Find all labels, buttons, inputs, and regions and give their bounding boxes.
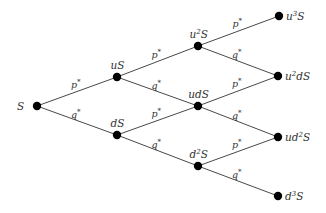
edge-label-p-star: p* <box>232 138 242 150</box>
edge-label-q-star: q* <box>232 168 242 180</box>
node-label-ud2S: ud2S <box>285 131 310 143</box>
node-label-udS: udS <box>188 88 209 100</box>
edge-label-p-star: p* <box>232 77 242 89</box>
node-label-u2S: u2S <box>190 28 208 40</box>
node-d3S-dot <box>274 192 282 200</box>
edge-label-q-star: q* <box>152 79 162 91</box>
edge-label-p-star: p* <box>71 78 81 90</box>
node-u2dS-dot <box>274 72 282 80</box>
edge-label-q-star: q* <box>71 108 81 120</box>
node-ud2S-dot <box>274 133 282 141</box>
node-d2S-dot <box>194 162 202 170</box>
node-label-dS: dS <box>111 117 125 129</box>
node-label-u3S: u3S <box>286 10 304 22</box>
binomial-tree-diagram: p*q*p*q*p*q*p*q*p*q*p*q* SuSdSu2SudSd2Su… <box>0 0 326 213</box>
edge-label-q-star: q* <box>152 138 162 150</box>
node-dS-dot <box>113 131 121 139</box>
edge-label-p-star: p* <box>152 48 162 60</box>
edge-label-q-star: q* <box>232 48 242 60</box>
node-label-u2dS: u2dS <box>285 70 310 82</box>
node-label-d2S: d2S <box>190 148 208 160</box>
node-labels-group: SuSdSu2SudSd2Su3Su2dSud2Sd3S <box>17 10 310 202</box>
node-label-S: S <box>17 100 24 112</box>
edge-label-q-star: q* <box>232 109 242 121</box>
node-uS-dot <box>113 73 121 81</box>
node-u2S-dot <box>194 42 202 50</box>
node-S-dot <box>33 102 41 110</box>
node-label-uS: uS <box>111 59 125 71</box>
edge-label-p-star: p* <box>152 107 162 119</box>
node-label-d3S: d3S <box>285 190 303 202</box>
node-udS-dot <box>194 102 202 110</box>
edge-label-p-star: p* <box>233 17 243 29</box>
node-u3S-dot <box>275 12 283 20</box>
